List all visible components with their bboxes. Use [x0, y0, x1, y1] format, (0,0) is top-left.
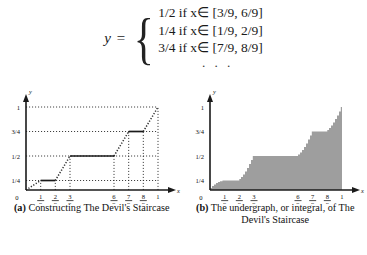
- y-tick-a-2: 1/2: [12, 153, 20, 160]
- y-tick-b-3: 1/4: [195, 177, 204, 184]
- plot-b-staircase-filled: y x 1 3/4 1/2 1/4 0 19 29 39 69 79 89: [184, 76, 367, 204]
- y-tick-a-3: 1/4: [12, 177, 21, 184]
- svg-text:8: 8: [325, 193, 329, 200]
- x-axis-name-b: x: [360, 187, 364, 194]
- x-origin-label-a: 0: [15, 194, 19, 201]
- y-axis-name-b: y: [212, 88, 216, 95]
- x-tick-b-6: 1: [340, 193, 343, 200]
- horizontal-guides-a: [26, 107, 158, 181]
- svg-text:1: 1: [39, 193, 42, 200]
- equation-ellipsis: · · ·: [158, 58, 263, 74]
- y-tick-a-0: 1: [17, 104, 20, 111]
- equation-lhs: y =: [104, 30, 129, 47]
- y-axis-arrow-b: [207, 94, 213, 102]
- y-tick-b-1: 3/4: [195, 128, 204, 135]
- svg-text:1: 1: [223, 193, 226, 200]
- svg-text:7: 7: [311, 193, 315, 200]
- svg-text:1: 1: [156, 193, 159, 200]
- figure-b-label: (b): [196, 202, 208, 213]
- svg-text:8: 8: [142, 193, 146, 200]
- x-origin-label-b: 0: [199, 194, 203, 201]
- axes-a: [23, 94, 176, 193]
- x-axis-arrow-b: [352, 187, 360, 193]
- equation-inner: y = { 1/2 if x∈ [3/9, 6/9] 1/4 if x∈ [1/…: [104, 4, 263, 74]
- svg-text:6: 6: [112, 193, 116, 200]
- y-axis-arrow-a: [23, 94, 29, 102]
- figure-b: y x 1 3/4 1/2 1/4 0 19 29 39 69 79 89: [184, 76, 367, 255]
- left-brace-glyph: {: [133, 12, 153, 66]
- vertical-guides-a: [41, 107, 158, 190]
- svg-text:3: 3: [252, 193, 256, 200]
- x-tick-a-6: 1: [156, 193, 159, 200]
- plot-a-svg: y x 1 3/4 1/2 1/4 0 19 29 39 69 79: [0, 76, 184, 204]
- risers-a: [26, 107, 158, 190]
- undergraph-fill-b: [210, 107, 342, 190]
- plot-a-staircase-outline: y x 1 3/4 1/2 1/4 0 19 29 39 69 79: [0, 76, 184, 204]
- equation-cases: 1/2 if x∈ [3/9, 6/9] 1/4 if x∈ [1/9, 2/9…: [158, 4, 263, 74]
- x-axis-arrow-a: [168, 187, 176, 193]
- y-tick-labels-a: 1 3/4 1/2 1/4: [12, 104, 21, 185]
- piecewise-equation: y = { 1/2 if x∈ [3/9, 6/9] 1/4 if x∈ [1/…: [0, 4, 367, 76]
- figure-a: y x 1 3/4 1/2 1/4 0 19 29 39 69 79: [0, 76, 184, 255]
- figure-a-label: (a): [14, 202, 26, 213]
- svg-text:2: 2: [54, 193, 57, 200]
- figure-a-caption-text: Constructing The Devil's Staircase: [28, 202, 169, 213]
- figure-row: y x 1 3/4 1/2 1/4 0 19 29 39 69 79: [0, 76, 367, 255]
- y-tick-b-0: 1: [200, 104, 203, 111]
- svg-text:1: 1: [340, 193, 343, 200]
- svg-text:7: 7: [127, 193, 131, 200]
- plot-b-svg: y x 1 3/4 1/2 1/4 0 19 29 39 69 79 89: [184, 76, 367, 204]
- figure-b-caption-text: The undergraph, or integral, of The Devi…: [211, 202, 355, 225]
- equation-case-3: 3/4 if x∈ [7/9, 8/9]: [158, 39, 263, 57]
- svg-text:6: 6: [296, 193, 300, 200]
- equation-case-2: 1/4 if x∈ [1/9, 2/9]: [158, 22, 263, 40]
- x-axis-name-a: x: [176, 187, 180, 194]
- y-axis-name-a: y: [28, 88, 32, 95]
- figure-a-caption: (a) Constructing The Devil's Staircase: [4, 202, 180, 214]
- y-tick-labels-b: 1 3/4 1/2 1/4: [195, 104, 204, 185]
- figure-b-caption: (b) The undergraph, or integral, of The …: [188, 202, 364, 227]
- equation-case-1: 1/2 if x∈ [3/9, 6/9]: [158, 4, 263, 22]
- y-tick-b-2: 1/2: [195, 153, 203, 160]
- y-tick-a-1: 3/4: [12, 128, 21, 135]
- svg-text:2: 2: [237, 193, 240, 200]
- svg-text:3: 3: [68, 193, 72, 200]
